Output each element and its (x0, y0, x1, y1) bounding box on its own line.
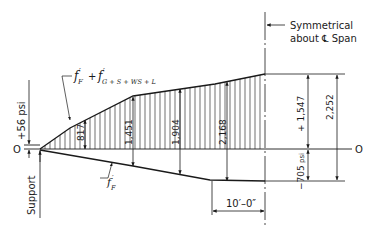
midspan-bottom-dim: −705 psi (296, 150, 308, 190)
stress-diagram: O O Symmetrical about ℄ Span f ′ F + f ′… (0, 0, 373, 237)
svg-text:+: + (88, 71, 96, 82)
symmetry-note-line2: about ℄ Span (290, 33, 357, 44)
svg-text:1,451: 1,451 (124, 119, 134, 145)
bottom-stress-curve (40, 150, 265, 181)
svg-text:+ 1,547: + 1,547 (296, 96, 306, 132)
svg-text:F: F (110, 184, 116, 192)
svg-text:2,252: 2,252 (325, 94, 335, 120)
support-label: Support (26, 175, 37, 215)
bottom-curve-label: f ′ F (100, 163, 116, 192)
ordinate-1451: 1,451 (124, 97, 134, 166)
zero-axis (24, 145, 352, 149)
zero-label-left: O (13, 144, 21, 155)
svg-text:′: ′ (79, 66, 81, 75)
svg-text:psi: psi (298, 153, 306, 163)
length-dim-label: 10′–0″ (226, 198, 256, 209)
svg-text:′: ′ (103, 66, 105, 75)
midspan-top-dim: + 1,547 (296, 75, 308, 148)
svg-text:−705: −705 (296, 165, 306, 190)
symmetry-note-line1: Symmetrical (290, 20, 353, 31)
svg-text:1,904: 1,904 (171, 119, 181, 145)
svg-text:′: ′ (112, 174, 114, 182)
ordinate-817: 817 (76, 120, 86, 149)
midspan-total-dim: 2,252 (325, 75, 337, 180)
top-curve-label: f ′ F + f ′ G + S + WS + L (62, 66, 156, 120)
svg-text:2,168: 2,168 (218, 119, 228, 145)
support-stress-label: +56 psi (16, 101, 27, 140)
svg-text:817: 817 (76, 124, 86, 141)
svg-text:F: F (77, 78, 84, 86)
support-marker: Support (26, 150, 40, 218)
svg-text:G + S + WS + L: G + S + WS + L (102, 78, 156, 86)
length-dim: 10′–0″ (212, 181, 264, 215)
zero-label-right: O (355, 144, 363, 155)
ordinate-2168: 2,168 (218, 82, 228, 181)
ordinate-1904: 1,904 (171, 89, 181, 174)
